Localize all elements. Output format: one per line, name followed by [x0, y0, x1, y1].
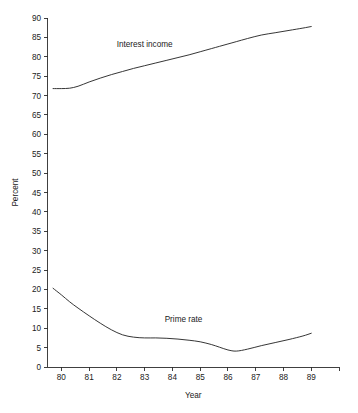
x-tick-label: 88 [279, 373, 289, 382]
y-tick-label: 90 [32, 14, 42, 23]
y-tick-label: 80 [32, 53, 42, 62]
y-tick-label: 25 [32, 266, 42, 275]
y-tick-label: 10 [32, 324, 42, 333]
x-tick-label: 84 [168, 373, 178, 382]
y-axis: 051015202530354045505560657075808590 [32, 14, 48, 372]
y-tick-label: 75 [32, 72, 42, 81]
y-tick-label: 70 [32, 92, 42, 101]
y-tick-label: 45 [32, 189, 42, 198]
series-label-0: Interest income [117, 40, 173, 49]
y-tick-label: 85 [32, 33, 42, 42]
x-axis: 80818283848586878889 [48, 367, 340, 382]
x-axis-title: Year [185, 391, 202, 400]
y-tick-label: 60 [32, 130, 42, 139]
x-tick-label: 80 [57, 373, 67, 382]
line-chart: 051015202530354045505560657075808590 808… [0, 0, 358, 413]
y-tick-label: 40 [32, 208, 42, 217]
y-tick-label: 20 [32, 285, 42, 294]
series-label-group: Interest incomePrime rate [117, 40, 203, 324]
y-tick-label: 50 [32, 169, 42, 178]
chart-canvas: 051015202530354045505560657075808590 808… [0, 0, 358, 413]
x-tick-label: 81 [85, 373, 95, 382]
y-tick-label: 15 [32, 305, 42, 314]
y-tick-label: 5 [36, 344, 41, 353]
y-tick-label: 0 [36, 363, 41, 372]
x-tick-label: 89 [307, 373, 317, 382]
y-tick-label: 65 [32, 111, 42, 120]
series-line-0 [53, 27, 311, 89]
data-series-group [53, 27, 311, 352]
x-tick-label: 87 [251, 373, 261, 382]
y-tick-label: 35 [32, 227, 42, 236]
series-label-1: Prime rate [165, 315, 203, 324]
y-tick-label: 55 [32, 150, 42, 159]
y-tick-label: 30 [32, 247, 42, 256]
x-tick-label: 82 [112, 373, 122, 382]
x-tick-label: 86 [223, 373, 233, 382]
x-tick-label: 83 [140, 373, 150, 382]
y-axis-title: Percent [11, 178, 20, 207]
x-tick-label: 85 [196, 373, 206, 382]
